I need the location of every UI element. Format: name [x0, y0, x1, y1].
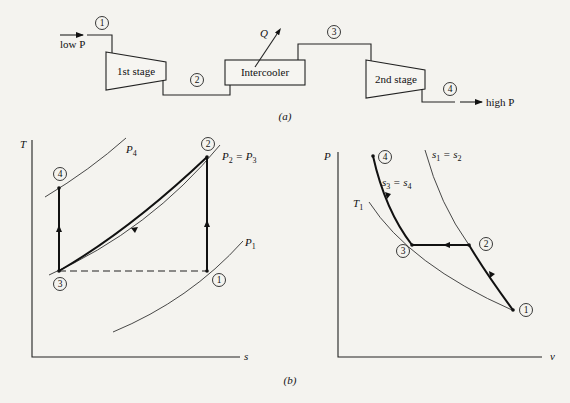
intercooler-box: Intercooler	[225, 60, 305, 85]
arrow-2-3-pv-icon	[443, 242, 450, 248]
isobar-p4	[45, 138, 126, 197]
arrow-up-1-2-icon	[204, 220, 210, 227]
state-4-marker-ts: 4	[54, 168, 67, 181]
pv-y-label: P	[323, 150, 331, 162]
svg-text:1: 1	[100, 18, 105, 28]
inlet-label: low P	[60, 38, 85, 50]
process-2-3	[59, 157, 207, 271]
pv-axes	[338, 152, 542, 357]
pipe-intercooler-stage2	[298, 44, 371, 61]
state-2-marker-pv: 2	[480, 238, 493, 251]
caption-b: (b)	[284, 374, 297, 387]
arrow-1-2-pv-icon	[489, 271, 495, 278]
svg-text:2: 2	[206, 139, 211, 149]
arrow-2-3-icon	[131, 227, 138, 233]
pv-diagram: P v s1 = s2 T1 s3 = s4 1 2	[323, 148, 555, 362]
svg-text:3: 3	[332, 27, 337, 37]
isentrope-s3-s4-label: s3 = s4	[382, 176, 412, 191]
svg-text:4: 4	[448, 84, 453, 94]
outlet-label: high P	[486, 96, 514, 108]
svg-text:1: 1	[524, 305, 529, 315]
second-stage-compressor: 2nd stage	[366, 60, 425, 98]
svg-text:2: 2	[484, 239, 489, 249]
heat-label: Q	[260, 27, 268, 39]
isobar-p1	[113, 241, 243, 332]
state-2-marker-ts: 2	[202, 138, 215, 151]
state-3-marker-pv: 3	[397, 245, 410, 258]
state-1-marker-pv: 1	[520, 304, 533, 317]
state-2-marker-a: 2	[191, 74, 204, 87]
svg-text:4: 4	[58, 169, 63, 179]
isentrope-s1-s2	[425, 150, 469, 245]
svg-text:2: 2	[195, 75, 200, 85]
state-3-marker-a: 3	[328, 26, 341, 39]
state-1-marker-a: 1	[96, 17, 109, 30]
state-4-marker-pv: 4	[379, 151, 392, 164]
ts-y-label: T	[20, 138, 27, 150]
second-stage-label: 2nd stage	[375, 73, 417, 85]
pv-x-label: v	[550, 350, 555, 362]
schematic-part-a: low P 1 1st stage 2 Intercooler Q	[60, 17, 514, 124]
intercooler-label: Intercooler	[241, 66, 290, 78]
isentrope-s1-s2-label: s1 = s2	[432, 148, 462, 163]
isotherm-t1	[369, 202, 512, 310]
ts-axes	[32, 140, 240, 357]
isobar-p1-label: P1	[244, 236, 256, 251]
isobar-p2-p3	[49, 145, 220, 275]
state-4-marker-a: 4	[444, 83, 457, 96]
ts-diagram: T s P4 P2 = P3 P1 1 2	[20, 138, 256, 363]
state-3-marker-ts: 3	[54, 278, 67, 291]
pipe-inlet	[87, 35, 112, 53]
ts-x-label: s	[244, 350, 248, 362]
isotherm-t1-label: T1	[353, 197, 363, 212]
isobar-p2-p3-label: P2 = P3	[221, 150, 256, 165]
first-stage-label: 1st stage	[117, 65, 155, 77]
first-stage-compressor: 1st stage	[106, 52, 166, 90]
svg-text:1: 1	[217, 275, 222, 285]
svg-text:4: 4	[383, 152, 388, 162]
svg-text:3: 3	[401, 246, 406, 256]
state-1-marker-ts: 1	[213, 274, 226, 287]
compressor-diagram: low P 1 1st stage 2 Intercooler Q	[0, 0, 570, 403]
arrow-up-3-4-icon	[56, 225, 62, 232]
caption-a: (a)	[279, 110, 292, 123]
isobar-p4-label: P4	[125, 143, 137, 158]
svg-text:3: 3	[58, 279, 63, 289]
